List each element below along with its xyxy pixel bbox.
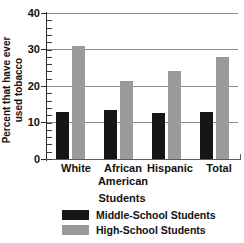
x-axis-category-labels: White African American Hispanic Total — [47, 162, 238, 190]
bar-high-school-african-american — [120, 81, 133, 160]
legend-label-middle-school: Middle-School Students — [96, 209, 216, 221]
bar-middle-school-white — [56, 112, 69, 160]
bar-middle-school-hispanic — [152, 113, 165, 159]
bar-middle-school-total — [200, 112, 213, 160]
x-axis-line — [46, 159, 241, 160]
legend-swatch-middle-school — [62, 210, 89, 220]
legend-label-high-school: High-School Students — [96, 224, 206, 236]
legend-item-middle-school: Middle-School Students — [62, 208, 244, 221]
chart-legend: Middle-School Students High-School Stude… — [62, 208, 244, 238]
bar-high-school-total — [216, 57, 229, 159]
x-axis-right-cap — [240, 154, 241, 160]
x-axis-title: Students — [0, 192, 244, 204]
y-axis-title-line-2: used tobacco — [13, 15, 25, 165]
legend-item-high-school: High-School Students — [62, 223, 244, 236]
category-label-total-line-1: Total — [184, 162, 244, 175]
bar-high-school-hispanic — [168, 71, 181, 159]
bar-high-school-white — [72, 46, 85, 159]
gridline-40 — [47, 13, 238, 14]
y-axis-title: Percent that have ever used tobacco — [1, 15, 25, 165]
y-axis-title-line-1: Percent that have ever — [1, 15, 13, 165]
bar-chart: 40 30 20 10 0 Percent that have ever use… — [0, 0, 244, 243]
bar-middle-school-african-american — [104, 110, 117, 159]
plot-area — [47, 13, 238, 159]
category-label-african-american-line-2: American — [88, 175, 158, 188]
category-label-total: Total — [184, 162, 244, 175]
legend-swatch-high-school — [62, 225, 89, 235]
